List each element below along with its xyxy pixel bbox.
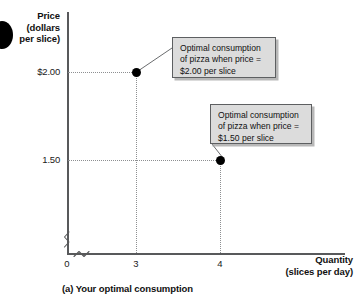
- x-axis-title-line2: (slices per day): [225, 266, 353, 278]
- data-point-3-2-00: [132, 68, 141, 77]
- callout-1-line2: of pizza when price =: [180, 54, 269, 65]
- x-axis-title-line1: Quantity: [225, 254, 353, 266]
- gridline-vertical-q3: [136, 72, 137, 253]
- x-tick-label-3: 3: [126, 258, 146, 269]
- chart-figure: Price (dollars per slice) Quantity (slic…: [0, 0, 355, 306]
- gridline-horizontal-1-50: [68, 160, 220, 161]
- y-axis-title: Price (dollars per slice): [0, 10, 60, 45]
- callout-2-line3: $1.50 per slice: [218, 133, 305, 144]
- y-tick-label-1-50: 1.50: [2, 154, 60, 165]
- x-tick-label-0: 0: [57, 258, 77, 269]
- callout-price-2-00: Optimal consumption of pizza when price …: [172, 37, 276, 78]
- callout-price-1-50: Optimal consumption of pizza when price …: [210, 104, 312, 144]
- leader-line-callout-1: [140, 48, 173, 70]
- y-tick-label-2-00: $2.00: [2, 66, 60, 77]
- y-axis-title-line2: (dollars: [0, 22, 60, 34]
- x-tick-label-4: 4: [210, 258, 230, 269]
- y-axis-title-line3: per slice): [0, 33, 60, 45]
- y-axis-title-line1: Price: [0, 10, 60, 22]
- gridline-vertical-q4: [220, 160, 221, 253]
- callout-1-line3: $2.00 per slice: [180, 66, 269, 77]
- gridline-horizontal-2-00: [68, 72, 136, 73]
- figure-caption: (a) Your optimal consumption: [62, 283, 193, 294]
- callout-2-line1: Optimal consumption: [218, 110, 305, 121]
- callout-2-line2: of pizza when price =: [218, 121, 305, 132]
- y-axis-line: [67, 12, 69, 255]
- callout-1-line1: Optimal consumption: [180, 43, 269, 54]
- x-axis-title: Quantity (slices per day): [225, 254, 353, 277]
- data-point-4-1-50: [216, 156, 225, 165]
